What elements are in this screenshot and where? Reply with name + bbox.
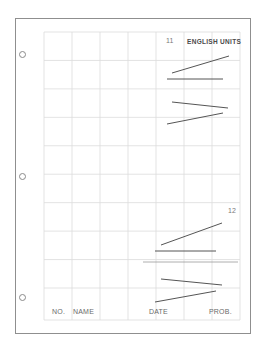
worksheet-grid-area bbox=[0, 0, 267, 349]
sketch-line bbox=[161, 279, 222, 285]
footer-date-label: DATE bbox=[149, 308, 168, 315]
sketch-line bbox=[172, 102, 228, 108]
footer-name-label: NAME bbox=[73, 308, 94, 315]
sketch-line bbox=[172, 56, 229, 73]
problem-11-sketch bbox=[167, 56, 229, 124]
footer-number-label: NO. bbox=[52, 308, 65, 315]
sketch-line bbox=[167, 113, 223, 124]
units-label: ENGLISH UNITS bbox=[187, 39, 241, 46]
problem-number-11: 11 bbox=[166, 37, 174, 44]
grid bbox=[44, 32, 240, 320]
problem-12-sketch bbox=[143, 223, 238, 302]
sketch-line bbox=[155, 291, 216, 302]
problem-number-12: 12 bbox=[228, 207, 236, 214]
sketch-line bbox=[161, 223, 222, 245]
footer-problem-label: PROB. bbox=[209, 308, 232, 315]
